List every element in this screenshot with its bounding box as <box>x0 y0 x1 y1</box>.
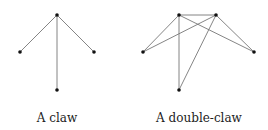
node-left <box>141 50 145 54</box>
claw-caption: A claw <box>17 111 97 125</box>
node-right <box>92 50 96 54</box>
node-top_left <box>177 13 181 17</box>
edge-top_left-right <box>179 15 254 52</box>
edge-top_right-bottom <box>179 15 216 90</box>
node-bottom <box>177 88 181 92</box>
double-claw-graph <box>141 13 256 92</box>
node-top_right <box>214 13 218 17</box>
edge-top-left <box>20 15 57 52</box>
edge-top-right <box>57 15 94 52</box>
edge-top_right-right <box>216 15 254 52</box>
edge-top_left-left <box>143 15 179 52</box>
node-bottom <box>55 88 59 92</box>
edge-top_right-left <box>143 15 216 52</box>
node-left <box>18 50 22 54</box>
node-right <box>252 50 256 54</box>
claw-graph <box>18 13 96 92</box>
node-top <box>55 13 59 17</box>
double-claw-caption: A double-claw <box>144 111 254 125</box>
